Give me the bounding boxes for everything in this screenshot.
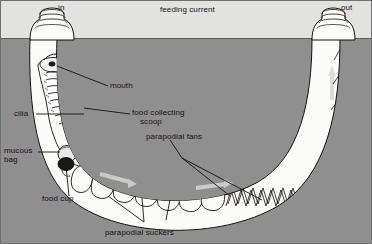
label-parapodial-suckers: parapodial suckers (105, 228, 174, 238)
leader-parapodial-fans (170, 140, 262, 200)
label-mouth: mouth (110, 81, 133, 91)
leader-parapodial-suckers-b (166, 200, 170, 220)
leader-parapodial-suckers (108, 196, 144, 222)
label-food-collecting-scoop-line2: scoop (140, 117, 162, 127)
label-outlet: out (341, 3, 352, 13)
leader-food-cup (66, 166, 69, 196)
label-mucous-bag-line2: bag (4, 155, 18, 165)
label-food-cup: food cup (42, 194, 74, 204)
label-parapodial-fans: parapodial fans (146, 132, 202, 142)
figure-diagram: in out feeding current mouth cilia food … (0, 0, 372, 244)
label-leader-lines (0, 0, 372, 244)
label-inlet: in (58, 3, 64, 13)
label-cilia: cilia (14, 109, 28, 119)
leader-mouth (57, 66, 108, 86)
leader-scoop (84, 108, 130, 114)
label-feeding-current: feeding current (160, 5, 215, 15)
